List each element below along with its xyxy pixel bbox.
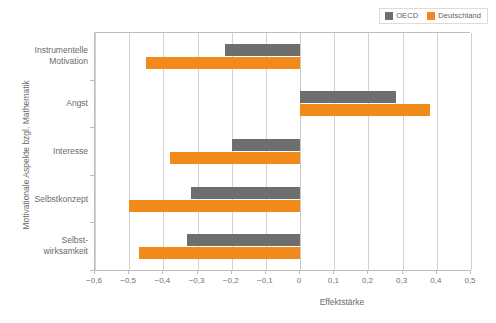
bar-oecd	[300, 91, 396, 103]
grid-line	[403, 33, 404, 270]
y-category-label: Angst	[4, 98, 88, 109]
y-tick	[90, 222, 94, 223]
bar-deutschland	[129, 200, 300, 212]
x-tick-label: 0,3	[396, 276, 407, 286]
x-tick-label: 0,5	[464, 276, 475, 286]
x-tick-label: 0,4	[430, 276, 441, 286]
x-tick	[367, 270, 368, 274]
y-axis-labels: InstrumentelleMotivationAngstInteresseSe…	[0, 0, 88, 323]
x-axis-title: Effektstärke	[320, 297, 365, 307]
grid-line	[471, 33, 472, 270]
grid-line	[95, 33, 96, 270]
x-tick-label: 0,1	[328, 276, 339, 286]
x-tick-label: −0,2	[223, 276, 239, 286]
bar-deutschland	[146, 57, 300, 69]
x-axis-title-row: Effektstärke	[0, 297, 496, 307]
plot-area	[94, 32, 470, 270]
legend-item-deutschland: Deutschland	[427, 12, 481, 20]
grid-line	[437, 33, 438, 270]
bar-oecd	[232, 139, 300, 151]
bar-oecd	[187, 234, 300, 246]
y-category-label: Selbst-wirksamkeit	[4, 235, 88, 257]
chart-legend: OECD Deutschland	[379, 8, 488, 24]
grid-line	[368, 33, 369, 270]
x-tick-label: −0,1	[257, 276, 273, 286]
legend-label-deutschland: Deutschland	[438, 12, 481, 20]
y-category-label: InstrumentelleMotivation	[4, 45, 88, 67]
legend-label-oecd: OECD	[396, 12, 418, 20]
x-tick	[299, 270, 300, 274]
y-tick	[90, 80, 94, 81]
x-tick	[162, 270, 163, 274]
y-tick	[90, 175, 94, 176]
bar-oecd	[225, 44, 300, 56]
y-category-label: Interesse	[4, 146, 88, 157]
x-tick	[128, 270, 129, 274]
y-tick	[90, 127, 94, 128]
legend-item-oecd: OECD	[385, 12, 418, 20]
x-tick	[333, 270, 334, 274]
x-tick-label: 0	[297, 276, 301, 286]
legend-swatch-deutschland	[427, 12, 435, 20]
x-axis-line	[94, 270, 471, 271]
y-category-label: Selbstkonzept	[4, 193, 88, 204]
x-tick-label: −0,5	[120, 276, 136, 286]
grid-line	[300, 33, 301, 270]
x-tick	[436, 270, 437, 274]
x-tick-label: −0,4	[154, 276, 170, 286]
grid-line	[334, 33, 335, 270]
grid-line	[129, 33, 130, 270]
bar-oecd	[191, 187, 300, 199]
x-tick	[231, 270, 232, 274]
x-tick	[94, 270, 95, 274]
chart-container: OECD Deutschland Motivationale Aspekte b…	[0, 0, 496, 323]
x-tick	[265, 270, 266, 274]
x-tick	[197, 270, 198, 274]
legend-swatch-oecd	[385, 12, 393, 20]
bar-deutschland	[139, 247, 300, 259]
x-tick	[402, 270, 403, 274]
y-tick	[90, 270, 94, 271]
x-tick-label: −0,3	[189, 276, 205, 286]
bar-deutschland	[300, 104, 430, 116]
x-tick	[470, 270, 471, 274]
bar-deutschland	[170, 152, 300, 164]
x-tick-label: 0,2	[362, 276, 373, 286]
x-tick-label: −0,6	[86, 276, 102, 286]
